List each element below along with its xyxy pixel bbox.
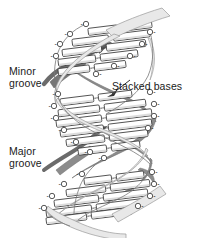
hydrogen-bond-dot xyxy=(104,117,106,119)
base-pair-rungs xyxy=(46,21,152,225)
phosphate-circle xyxy=(151,113,156,118)
phosphate-circle xyxy=(147,29,152,34)
phosphate-group: - xyxy=(147,28,156,35)
dna-helix-illustration: ---------------------------- xyxy=(0,0,199,238)
phosphate-group: - xyxy=(58,126,66,133)
hydrogen-bond-dot xyxy=(98,57,100,59)
phosphate-group: - xyxy=(151,100,160,107)
phosphate-circle xyxy=(147,193,152,198)
phosphate-circle xyxy=(41,205,46,210)
phosphate-circle xyxy=(53,115,58,120)
phosphate-circle xyxy=(61,181,66,186)
minor-groove-label: Minor groove xyxy=(9,66,42,89)
phosphate-circle xyxy=(51,103,56,108)
hydrogen-bond-dot xyxy=(108,187,110,189)
phosphate-charge-sign: - xyxy=(157,112,160,119)
hydrogen-bond-dot xyxy=(89,215,91,217)
hydrogen-bond-dot xyxy=(99,197,101,199)
hydrogen-bond-dot xyxy=(94,97,96,99)
phosphate-circle xyxy=(101,155,106,160)
phosphate-circle xyxy=(127,53,132,58)
phosphate-circle xyxy=(61,127,66,132)
phosphate-group: - xyxy=(38,204,46,211)
phosphate-group: - xyxy=(64,30,72,37)
phosphate-circle xyxy=(83,21,88,26)
phosphate-charge-sign: - xyxy=(155,168,158,175)
hydrogen-bond-dot xyxy=(102,117,104,119)
dna-helix-figure: ---------------------------- Minor groov… xyxy=(0,0,199,238)
hydrogen-bond-dot xyxy=(112,177,114,179)
phosphate-circle xyxy=(87,149,92,154)
phosphate-charge-sign: - xyxy=(145,40,148,47)
stacked-bases-label: Stacked bases xyxy=(112,81,182,93)
phosphate-circle xyxy=(49,193,54,198)
phosphate-circle xyxy=(53,53,58,58)
phosphate-group: - xyxy=(58,180,66,187)
phosphate-circle xyxy=(145,125,150,130)
phosphate-circle xyxy=(111,63,116,68)
hydrogen-bond-dot xyxy=(92,67,94,69)
hydrogen-bond-dot xyxy=(96,97,98,99)
hydrogen-bond-dot xyxy=(96,57,98,59)
phosphate-circle xyxy=(139,41,144,46)
phosphate-circle xyxy=(135,203,140,208)
phosphate-circle xyxy=(73,139,78,144)
hydrogen-bond-dot xyxy=(107,147,109,149)
hydrogen-bond-dot xyxy=(92,207,94,209)
phosphate-circle xyxy=(149,169,154,174)
phosphate-charge-sign: - xyxy=(99,70,102,77)
hydrogen-bond-dot xyxy=(106,187,108,189)
phosphate-group: - xyxy=(151,112,160,119)
phosphate-charge-sign: - xyxy=(157,100,160,107)
phosphate-group: - xyxy=(54,40,62,47)
hydrogen-bond-dot xyxy=(90,67,92,69)
hydrogen-bond-dot xyxy=(102,107,104,109)
hydrogen-bond-dot xyxy=(109,147,111,149)
phosphate-circle xyxy=(151,101,156,106)
phosphate-circle xyxy=(67,31,72,36)
major-groove-label: Major groove xyxy=(9,146,42,169)
hydrogen-bond-dot xyxy=(94,207,96,209)
hydrogen-bond-dot xyxy=(101,197,103,199)
phosphate-group: - xyxy=(46,192,54,199)
phosphate-circle xyxy=(151,181,156,186)
phosphate-circle xyxy=(57,41,62,46)
hydrogen-bond-dot xyxy=(87,215,89,217)
phosphate-group: - xyxy=(80,20,88,27)
hydrogen-bond-dot xyxy=(100,107,102,109)
phosphate-group: - xyxy=(50,114,58,121)
phosphate-group: - xyxy=(98,154,106,161)
phosphate-circle xyxy=(79,171,84,176)
hydrogen-bond-dot xyxy=(114,177,116,179)
phosphate-circle xyxy=(93,71,98,76)
hydrogen-bond-dot xyxy=(106,127,108,129)
phosphate-charge-sign: - xyxy=(153,28,156,35)
phosphate-circle xyxy=(55,91,60,96)
